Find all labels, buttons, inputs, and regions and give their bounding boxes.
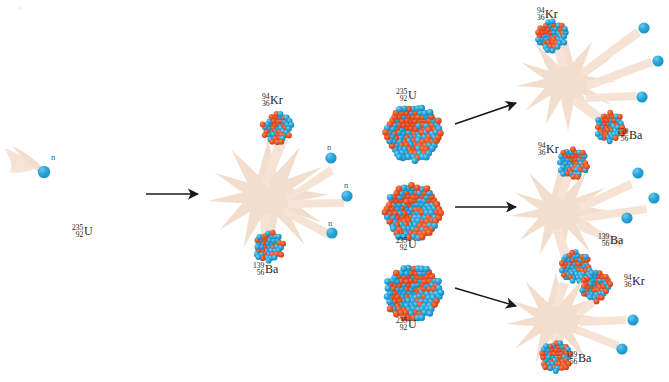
label-ba139-bottom: 139 56 Ba xyxy=(566,351,591,365)
label-neutron-1b: n xyxy=(344,181,348,190)
free-neutron-top-b xyxy=(652,55,663,66)
fission-diagram-artwork xyxy=(0,0,669,382)
free-neutron-top-a xyxy=(638,22,649,33)
label-u235-mid-top: 235 92 U xyxy=(396,88,417,102)
fission-chain-reaction-figure: 235 92 U n 94 36 Kr 139 56 Ba n n n 235 … xyxy=(0,0,669,382)
free-neutron-1a xyxy=(325,152,336,163)
incoming-neutron-group xyxy=(4,146,50,178)
label-incoming-neutron: n xyxy=(51,153,55,162)
free-neutron-mid-a xyxy=(632,167,643,178)
label-neutron-1c: n xyxy=(328,219,332,228)
kr-nucleus-1 xyxy=(260,111,294,145)
free-neutron-bot-c xyxy=(616,343,627,354)
label-u235-mid-center: 235 92 U xyxy=(396,237,417,251)
free-neutron-mid-c xyxy=(621,212,632,223)
u-nucleus-center xyxy=(382,182,444,241)
free-neutron-top-c xyxy=(636,91,647,102)
free-neutron-1c xyxy=(326,227,337,238)
incoming-neutron xyxy=(38,166,50,178)
label-kr94-1: 94 36 Kr xyxy=(262,93,283,107)
label-neutron-1a: n xyxy=(327,143,331,152)
label-ba139-top: 139 56 Ba xyxy=(617,128,642,142)
label-ba139-1: 139 56 Ba xyxy=(253,262,278,276)
free-neutron-mid-b xyxy=(648,192,659,203)
label-kr94-middle: 94 36 Kr xyxy=(538,142,559,156)
free-neutron-1b xyxy=(341,190,352,201)
label-kr94-bottom: 94 36 Kr xyxy=(624,274,645,288)
label-u235-left: 235 92 U xyxy=(72,224,93,238)
arrow-to-burst-top xyxy=(455,103,516,124)
free-neutron-bot-a xyxy=(627,314,638,325)
arrow-to-burst-bottom xyxy=(455,288,516,306)
label-u235-mid-bottom: 235 92 U xyxy=(396,317,417,331)
u-nucleus-top xyxy=(382,105,443,164)
label-ba139-middle: 139 56 Ba xyxy=(598,233,623,247)
ba-nucleus-1 xyxy=(254,230,286,264)
u-nucleus-bottom xyxy=(384,265,444,322)
label-kr94-top: 94 36 Kr xyxy=(537,7,558,21)
